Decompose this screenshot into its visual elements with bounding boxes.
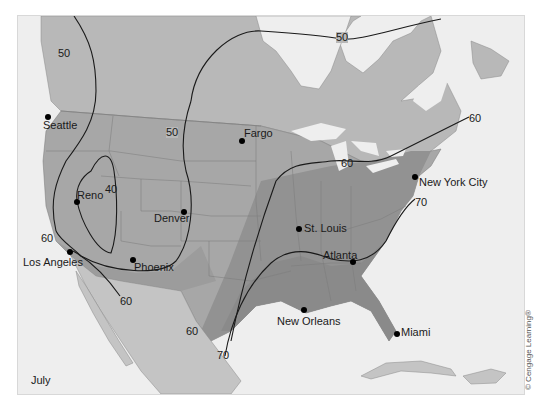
isotherm-label: 70 (415, 197, 427, 208)
city-label-new-york-city: New York City (419, 177, 487, 188)
city-label-reno: Reno (77, 190, 103, 201)
copyright-notice: © Cengage Learning® (524, 310, 533, 390)
city-label-phoenix: Phoenix (134, 262, 174, 273)
city-label-seattle: Seattle (43, 120, 77, 131)
isotherm-label: 60 (41, 233, 53, 244)
city-dot-st-louis (296, 226, 302, 232)
isotherm-label: 50 (58, 48, 70, 59)
city-dot-new-orleans (301, 307, 307, 313)
isotherm-map: 50 50 50 40 60 60 70 60 60 60 70 Seattle… (17, 15, 525, 395)
map-graphic (18, 16, 524, 394)
city-label-atlanta: Atlanta (323, 250, 357, 261)
isotherm-label: 40 (105, 184, 117, 195)
city-label-fargo: Fargo (244, 128, 273, 139)
isotherm-label: 50 (336, 32, 348, 43)
isotherm-label: 60 (120, 296, 132, 307)
city-label-st-louis: St. Louis (304, 223, 347, 234)
city-dot-miami (394, 331, 400, 337)
city-label-miami: Miami (401, 327, 430, 338)
city-dot-los-angeles (67, 249, 73, 255)
city-dot-new-york-city (412, 174, 418, 180)
isotherm-label: 60 (469, 113, 481, 124)
city-label-denver: Denver (154, 213, 189, 224)
isotherm-label: 70 (217, 350, 229, 361)
city-label-los-angeles: Los Angeles (23, 257, 83, 268)
month-label: July (31, 375, 51, 386)
isotherm-label: 50 (166, 127, 178, 138)
isotherm-label: 60 (341, 158, 353, 169)
city-label-new-orleans: New Orleans (277, 316, 341, 327)
isotherm-label: 60 (186, 326, 198, 337)
